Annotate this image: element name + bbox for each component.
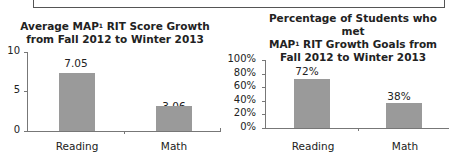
- x-category-label: Math: [375, 140, 435, 152]
- chart-title: Percentage of Students who met MAP1 RIT …: [258, 12, 448, 64]
- y-tick-label: 0%: [226, 121, 256, 132]
- y-tick: [24, 91, 28, 92]
- y-tick-label: 10: [0, 45, 20, 56]
- y-tick-label: 40%: [226, 94, 256, 105]
- x-category-label: Reading: [47, 140, 107, 152]
- y-tick-label: 80%: [226, 67, 256, 78]
- bar-value-label: 7.05: [56, 57, 96, 69]
- x-category-label: Reading: [283, 140, 343, 152]
- y-tick: [262, 87, 266, 88]
- bar-reading: [294, 79, 330, 128]
- y-tick: [262, 114, 266, 115]
- bar-reading: [59, 73, 95, 131]
- y-tick: [262, 101, 266, 102]
- x-axis: [24, 131, 221, 132]
- bar-value-label: 38%: [379, 90, 419, 102]
- y-tick-label: 100%: [226, 53, 256, 64]
- bar-math: [386, 103, 422, 128]
- y-tick: [262, 60, 266, 61]
- y-tick-label: 20%: [226, 107, 256, 118]
- y-tick-label: 5: [0, 84, 20, 95]
- bar-math: [156, 106, 192, 131]
- x-tick: [124, 131, 125, 134]
- y-axis: [265, 60, 266, 129]
- x-category-label: Math: [144, 140, 204, 152]
- top-border-box: [33, 0, 445, 8]
- bar-value-label: 72%: [287, 65, 327, 77]
- y-tick: [262, 74, 266, 75]
- x-axis: [262, 128, 449, 129]
- x-tick: [358, 128, 359, 131]
- y-tick-label: 0: [0, 124, 20, 135]
- x-tick: [220, 128, 221, 132]
- y-tick: [24, 52, 28, 53]
- y-tick-label: 60%: [226, 80, 256, 91]
- chart-title: Average MAP1 RIT Score Growth from Fall …: [20, 20, 210, 46]
